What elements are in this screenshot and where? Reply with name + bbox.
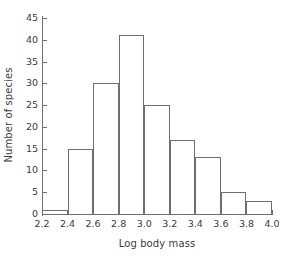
y-axis-tick-label: 25 <box>0 99 38 110</box>
histogram-bar <box>93 83 119 214</box>
histogram-bar <box>246 201 272 214</box>
y-axis-tick-label: 15 <box>0 143 38 154</box>
histogram-bar <box>144 105 170 214</box>
x-axis-title: Log body mass <box>42 238 272 249</box>
histogram-bar <box>119 35 145 214</box>
y-axis-tick <box>43 105 47 106</box>
y-axis-tick <box>43 149 47 150</box>
y-axis-tick <box>43 18 47 19</box>
y-axis-tick <box>43 214 47 215</box>
x-axis-line <box>42 214 273 215</box>
y-axis-tick-label: 30 <box>0 77 38 88</box>
histogram-chart: Number of species 051015202530354045 2.2… <box>0 0 284 258</box>
y-axis-tick-label: 10 <box>0 164 38 175</box>
histogram-bar <box>221 192 247 214</box>
y-axis-tick <box>43 83 47 84</box>
histogram-bar <box>195 157 221 214</box>
y-axis-tick <box>43 192 47 193</box>
x-axis-tick-label: 4.0 <box>257 218 284 229</box>
y-axis-tick <box>43 170 47 171</box>
histogram-bar <box>170 140 196 214</box>
y-axis-tick-label: 5 <box>0 186 38 197</box>
histogram-bar <box>42 210 68 214</box>
y-axis-tick <box>43 40 47 41</box>
y-axis-tick-label: 35 <box>0 56 38 67</box>
y-axis-tick-label: 40 <box>0 34 38 45</box>
y-axis-tick <box>43 62 47 63</box>
histogram-bar <box>68 149 94 214</box>
y-axis-line <box>42 16 43 216</box>
y-axis-tick <box>43 127 47 128</box>
x-axis-tick <box>272 210 273 215</box>
y-axis-tick-label: 20 <box>0 121 38 132</box>
y-axis-tick-label: 45 <box>0 12 38 23</box>
